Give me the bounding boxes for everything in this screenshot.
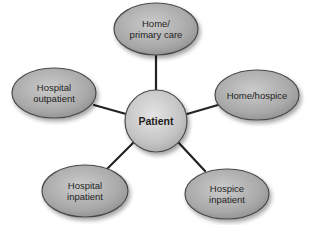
care-settings-diagram — [0, 0, 309, 225]
node-hospice-inpatient — [185, 169, 269, 219]
connector-hospital-outpatient — [94, 105, 126, 114]
connector-hospital-inpatient — [107, 142, 134, 169]
node-hospital-inpatient — [42, 165, 128, 217]
node-patient — [125, 90, 187, 152]
connector-hospice-inpatient — [178, 142, 205, 171]
node-home-primary-care — [114, 3, 198, 55]
node-home-hospice — [215, 70, 299, 120]
connector-home-hospice — [187, 105, 218, 114]
node-hospital-outpatient — [12, 68, 96, 118]
